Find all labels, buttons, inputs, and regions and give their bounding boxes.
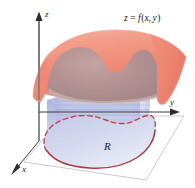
surface-sheet	[33, 30, 186, 105]
equation-close-paren: )	[157, 13, 160, 24]
surface-equation-label: z=f(x,y)	[123, 13, 160, 24]
equation-lhs: z	[123, 13, 128, 23]
z-axis-arrowhead-top	[36, 12, 43, 21]
x-axis-label: x	[21, 164, 26, 174]
z-axis-label: z	[44, 9, 49, 19]
surface-region-diagram: z y x R z=f(x,y)	[0, 0, 195, 188]
region-label-R: R	[103, 140, 111, 152]
y-axis-label: y	[169, 97, 174, 107]
y-axis-arrowhead	[170, 108, 180, 115]
figure-container: z y x R z=f(x,y)	[0, 0, 195, 188]
equation-equals: =	[130, 13, 135, 23]
equation-comma: ,	[149, 13, 151, 23]
surface-equation-text: z=f(x,y)	[123, 13, 160, 24]
